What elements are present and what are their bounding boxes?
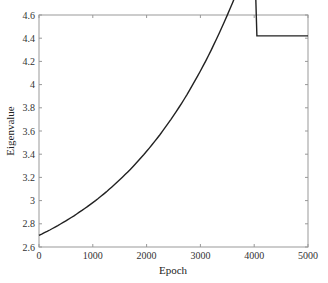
y-tick-label: 3.2 — [23, 172, 36, 183]
data-series — [39, 0, 308, 235]
series-line — [39, 0, 308, 235]
x-axis-title: Epoch — [159, 264, 188, 276]
y-tick-label: 3.6 — [23, 126, 36, 137]
y-tick-label: 4.2 — [23, 56, 36, 67]
x-tick-label: 1000 — [83, 250, 103, 261]
line-chart: 0100020003000400050002.62.833.23.43.63.8… — [0, 0, 328, 283]
x-tick-label: 2000 — [137, 250, 157, 261]
y-tick-label: 2.8 — [23, 218, 36, 229]
y-axis-title: Eigenvalue — [4, 106, 16, 156]
y-tick-label: 3.8 — [23, 102, 36, 113]
axis-ticks: 0100020003000400050002.62.833.23.43.63.8… — [23, 10, 319, 262]
x-tick-label: 3000 — [190, 250, 210, 261]
y-tick-label: 3 — [30, 195, 35, 206]
y-tick-label: 4 — [30, 79, 35, 90]
y-tick-label: 4.6 — [23, 10, 36, 21]
x-tick-label: 5000 — [298, 250, 318, 261]
x-tick-label: 4000 — [244, 250, 264, 261]
y-tick-label: 4.4 — [23, 33, 36, 44]
y-tick-label: 2.6 — [23, 242, 36, 253]
y-tick-label: 3.4 — [23, 149, 36, 160]
x-tick-label: 0 — [37, 250, 42, 261]
